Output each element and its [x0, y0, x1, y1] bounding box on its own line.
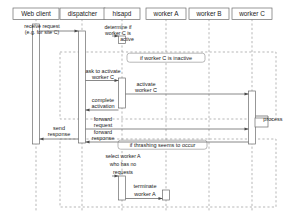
msg-ask-activate: ask to activate worker C [85, 68, 120, 83]
activation-hisapd-terminate [119, 176, 126, 200]
participant-worker-b[interactable]: worker B [189, 8, 229, 20]
participant-label: worker A [153, 10, 180, 17]
note-line: who has no [110, 161, 137, 167]
participant-label: hisapd [113, 10, 132, 18]
activation-bars [33, 24, 269, 200]
message-label-line: activation [91, 103, 114, 109]
participant-label: dispatcher [68, 10, 98, 18]
message-label-line: worker A [133, 191, 156, 197]
note-line: (e.g. for site C) [25, 29, 60, 35]
activation-web-client [33, 24, 40, 144]
note-line: requests [113, 169, 133, 175]
msg-terminate-worker-a: terminate worker A [126, 183, 163, 200]
activation-worker-a [163, 190, 170, 200]
note-select-worker: select worker A who has no requests [105, 153, 141, 175]
participant-web-client[interactable]: Web client [13, 8, 59, 20]
message-label-line: response [92, 135, 115, 141]
message-label-line: response [48, 131, 71, 137]
msg-send-response: send response [40, 125, 79, 141]
fragment-inactive[interactable]: if worker C is inactive [60, 52, 276, 119]
message-label-line: request [94, 122, 113, 128]
activation-hisapd-activate [119, 78, 126, 108]
participant-label: worker B [195, 10, 221, 17]
fragment-condition-label: if thrashing seems to occur [130, 142, 196, 148]
message-label-line: worker C [134, 87, 157, 93]
note-line: worker C is [105, 30, 131, 36]
note-line: select worker A [105, 153, 141, 159]
participant-worker-a[interactable]: worker A [146, 8, 186, 20]
activation-worker-c [249, 91, 256, 144]
msg-complete-activation: complete activation [86, 97, 119, 112]
uml-sequence-diagram: Web client dispatcher hisapd worker A wo… [0, 0, 288, 224]
participant-hisapd[interactable]: hisapd [104, 8, 140, 20]
participant-label: worker C [238, 10, 265, 17]
participant-headers: Web client dispatcher hisapd worker A wo… [13, 8, 272, 20]
note-line: active [120, 36, 134, 42]
note-receive-request: receive request (e.g. for site C) [24, 23, 60, 35]
activation-dispatcher [79, 31, 86, 143]
message-label-line: terminate [134, 183, 157, 189]
message-label-line: worker C [91, 74, 114, 80]
fragment-condition-label: if worker C is inactive [140, 55, 192, 61]
msg-activate-worker-c: activate worker C [126, 81, 249, 96]
participant-dispatcher[interactable]: dispatcher [60, 8, 105, 20]
participant-label: Web client [21, 10, 51, 17]
participant-worker-c[interactable]: worker C [232, 8, 272, 20]
